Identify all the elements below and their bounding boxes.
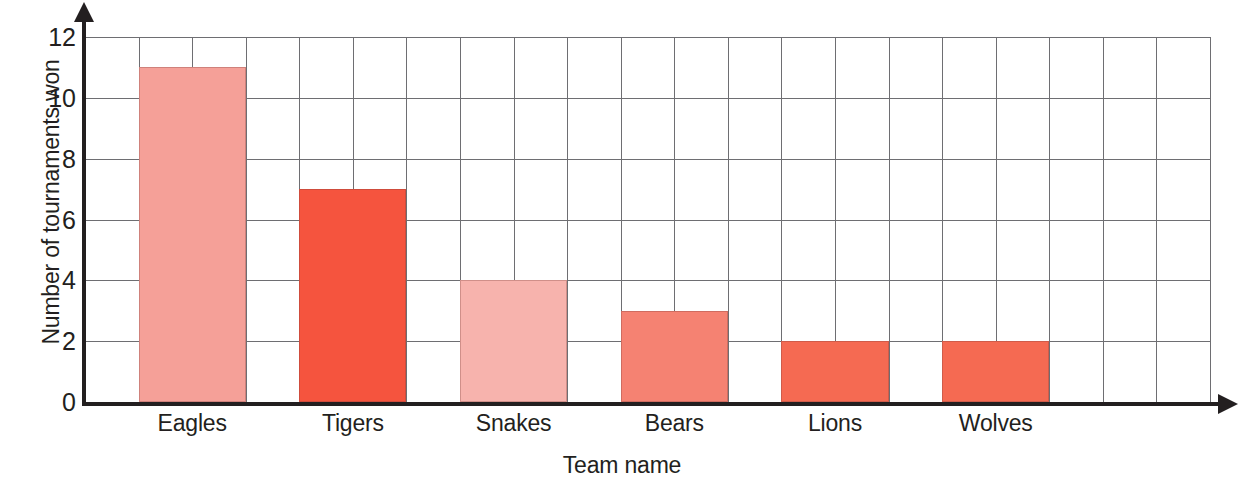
- x-tick-label-bears: Bears: [645, 410, 704, 437]
- y-tick-label-8: 8: [36, 144, 76, 173]
- x-tick-label-tigers: Tigers: [322, 410, 384, 437]
- x-tick-label-lions: Lions: [808, 410, 862, 437]
- bar-wolves: [942, 341, 1049, 402]
- gridline-vertical: [1156, 37, 1157, 402]
- gridline-horizontal: [85, 159, 1210, 160]
- x-axis-title: Team name: [0, 452, 1244, 479]
- y-tick-label-0: 0: [36, 388, 76, 417]
- gridline-horizontal: [85, 220, 1210, 221]
- y-tick-label-6: 6: [36, 205, 76, 234]
- gridline-vertical: [246, 37, 247, 402]
- bar-lions: [781, 341, 888, 402]
- y-axis-line: [82, 18, 86, 406]
- y-tick-label-12: 12: [36, 23, 76, 52]
- gridline-vertical: [1103, 37, 1104, 402]
- bar-eagles: [139, 67, 246, 402]
- x-axis-line: [82, 402, 1222, 406]
- gridline-horizontal: [85, 37, 1210, 38]
- y-axis-tick-labels: 024681012: [26, 0, 76, 484]
- x-tick-label-snakes: Snakes: [476, 410, 552, 437]
- bar-snakes: [460, 280, 567, 402]
- x-tick-label-wolves: Wolves: [959, 410, 1033, 437]
- plot-area: [85, 37, 1210, 402]
- y-tick-label-2: 2: [36, 327, 76, 356]
- y-axis-arrow-icon: [74, 2, 94, 22]
- bar-bears: [621, 311, 728, 402]
- gridline-vertical: [1210, 37, 1211, 402]
- bar-chart-figure: Number of tournaments won 024681012 Eagl…: [0, 0, 1244, 484]
- bar-tigers: [299, 189, 406, 402]
- x-axis-arrow-icon: [1218, 394, 1238, 414]
- y-tick-label-4: 4: [36, 266, 76, 295]
- gridline-vertical: [728, 37, 729, 402]
- gridline-vertical: [889, 37, 890, 402]
- gridline-horizontal: [85, 280, 1210, 281]
- gridline-horizontal: [85, 98, 1210, 99]
- y-tick-label-10: 10: [36, 83, 76, 112]
- gridline-vertical: [567, 37, 568, 402]
- x-tick-label-eagles: Eagles: [158, 410, 227, 437]
